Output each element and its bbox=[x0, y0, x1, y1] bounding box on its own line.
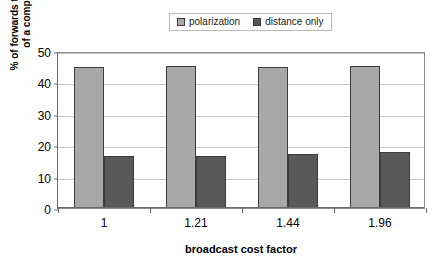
y-axis-title-line-1: % of forwards that form part bbox=[9, 0, 21, 70]
y-axis-title: % of forwards that form part of a comple… bbox=[6, 0, 36, 82]
y-axis-tick-label: 50 bbox=[38, 47, 51, 59]
legend-swatch-distance-only bbox=[253, 18, 261, 26]
x-axis-tick-mark bbox=[426, 208, 427, 213]
x-axis-tick-label: 1 bbox=[101, 217, 108, 230]
x-axis-title: broadcast cost factor bbox=[57, 243, 425, 256]
bar bbox=[104, 156, 134, 208]
bar bbox=[74, 67, 104, 208]
bar bbox=[196, 156, 226, 208]
bar-chart: polarization distance only % of forwards… bbox=[0, 0, 441, 268]
x-axis-tick-mark bbox=[242, 208, 243, 213]
y-axis-tick-label: 30 bbox=[38, 110, 51, 122]
bar bbox=[380, 152, 410, 208]
x-axis-line bbox=[58, 207, 424, 208]
legend-swatch-polarization bbox=[177, 18, 185, 26]
y-axis-title-line-2: of a complete path bbox=[21, 0, 33, 48]
x-axis-tick-label: 1.96 bbox=[368, 217, 391, 230]
x-axis-tick-mark bbox=[334, 208, 335, 213]
x-axis-tick-label: 1.21 bbox=[184, 217, 207, 230]
y-axis-tick-label: 10 bbox=[38, 173, 51, 185]
bar bbox=[258, 67, 288, 208]
legend-label-distance-only: distance only bbox=[265, 17, 323, 27]
y-axis-tick-label: 0 bbox=[44, 204, 51, 216]
x-axis-tick-label: 1.44 bbox=[276, 217, 299, 230]
bars-layer bbox=[58, 53, 424, 208]
plot-area: 01020304050 11.211.441.96 bbox=[57, 52, 425, 209]
x-axis-tick-mark bbox=[58, 208, 59, 213]
bar bbox=[350, 66, 380, 208]
legend-entry-polarization: polarization bbox=[177, 17, 240, 27]
y-axis-line bbox=[57, 52, 58, 209]
legend-entry-distance-only: distance only bbox=[253, 17, 323, 27]
y-axis-tick-label: 40 bbox=[38, 78, 51, 90]
chart-legend: polarization distance only bbox=[169, 13, 332, 31]
y-axis-tick-label: 20 bbox=[38, 141, 51, 153]
legend-label-polarization: polarization bbox=[189, 17, 240, 27]
x-axis-tick-mark bbox=[150, 208, 151, 213]
bar bbox=[166, 66, 196, 208]
bar bbox=[288, 154, 318, 208]
